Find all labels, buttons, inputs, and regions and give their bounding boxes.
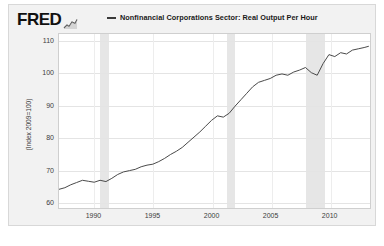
legend-series-label: Nonfinancial Corporations Sector: Real O… [120,13,318,22]
chart-legend: Nonfinancial Corporations Sector: Real O… [107,13,318,22]
line-swatch-icon [107,17,116,19]
plot-area [58,33,371,209]
y-axis-tick-label: 70 [46,166,54,173]
series-polyline [59,46,369,189]
x-axis: 19901995200020052010 [58,212,371,224]
fred-logo: FRED [17,11,78,28]
line-chart-icon [63,16,78,28]
y-axis-tick-label: 90 [46,101,54,108]
x-axis-tick-label: 1990 [86,212,102,219]
y-axis: (Index 2009=100) 11010090807060 [9,33,54,209]
series-line [59,34,370,208]
x-axis-tick-label: 2010 [322,212,338,219]
x-axis-tick-label: 2005 [263,212,279,219]
y-axis-tick-label: 80 [46,134,54,141]
x-axis-tick-label: 2000 [204,212,220,219]
fred-wordmark: FRED [17,11,61,28]
y-axis-tick-label: 100 [42,69,54,76]
y-axis-tick-label: 60 [46,199,54,206]
y-axis-tick-label: 110 [43,36,54,43]
fred-chart-figure: FRED Nonfinancial Corporations Sector: R… [8,4,376,226]
y-axis-title: (Index 2009=100) [25,50,32,200]
x-axis-tick-label: 1995 [145,212,161,219]
